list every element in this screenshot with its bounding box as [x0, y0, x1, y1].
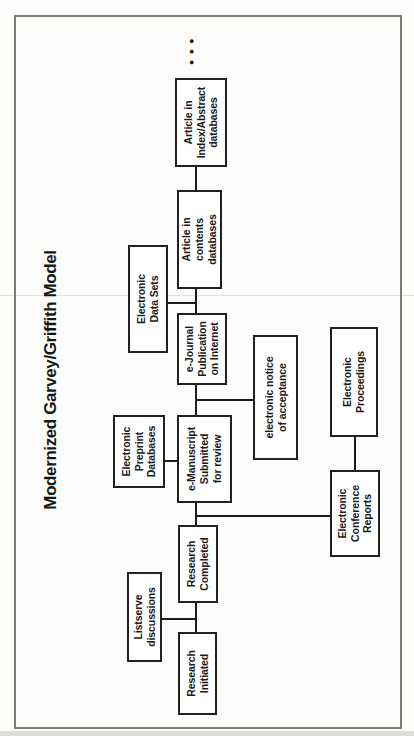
node-e-manuscript-submitted: e-Manuscript Submitted for review: [177, 415, 232, 503]
node-research-completed: Research Completed: [178, 525, 218, 603]
continuation-dots-icon: ●●●: [186, 33, 196, 65]
node-e-journal-publication-label: e-Journal Publication on Internet: [183, 321, 221, 377]
node-article-in-contents-databases-label: Article in contents databases: [180, 214, 218, 264]
node-electronic-data-sets-label: Electronic Data Sets: [135, 274, 161, 324]
diagram-title: Modernized Garvey/Griffith Model: [41, 230, 61, 530]
connector-preprint-drop: [164, 460, 178, 462]
node-electronic-conference-reports: Electronic Conference Reports: [330, 470, 380, 557]
connector-completed-to-manuscript: [195, 502, 197, 526]
connector-listserve-drop: [161, 618, 197, 620]
node-listserve-discussions-label: Listserve discussions: [132, 587, 158, 647]
node-electronic-preprint-databases-label: Electronic Preprint Databases: [120, 426, 158, 478]
node-electronic-conference-reports-label: Electronic Conference Reports: [336, 485, 374, 542]
node-research-initiated-label: Research Initiated: [185, 650, 211, 696]
node-electronic-proceedings: Electronic Proceedings: [330, 327, 378, 437]
connector-data-sets-drop: [167, 302, 197, 304]
node-research-completed-label: Research Completed: [185, 537, 211, 590]
node-article-in-contents-databases: Article in contents databases: [177, 190, 222, 289]
connector-notice-drop: [195, 399, 254, 401]
diagram-canvas: Modernized Garvey/Griffith Model Researc…: [0, 0, 414, 736]
node-listserve-discussions: Listserve discussions: [127, 572, 162, 662]
page-edge-shadow: [0, 731, 414, 736]
node-e-journal-publication: e-Journal Publication on Internet: [177, 313, 227, 385]
node-research-initiated: Research Initiated: [178, 632, 217, 715]
connector-journal-to-contents: [195, 288, 197, 314]
node-electronic-proceedings-label: Electronic Proceedings: [341, 351, 367, 413]
node-article-in-index-abstract-databases: Article in Index/Abstract databases: [175, 78, 227, 167]
node-electronic-data-sets: Electronic Data Sets: [128, 245, 168, 353]
node-electronic-notice-of-acceptance-label: electronic notice of acceptance: [263, 357, 289, 439]
connector-conference-reports-drop: [195, 515, 331, 517]
node-electronic-preprint-databases: Electronic Preprint Databases: [113, 415, 165, 488]
node-article-in-index-abstract-databases-label: Article in Index/Abstract databases: [182, 87, 220, 159]
scanned-page: Modernized Garvey/Griffith Model Researc…: [0, 0, 414, 736]
connector-conference-to-proceedings: [354, 436, 356, 471]
node-e-manuscript-submitted-label: e-Manuscript Submitted for review: [185, 427, 223, 491]
connector-contents-to-index-abstract: [195, 166, 197, 191]
node-electronic-notice-of-acceptance: electronic notice of acceptance: [253, 335, 298, 460]
